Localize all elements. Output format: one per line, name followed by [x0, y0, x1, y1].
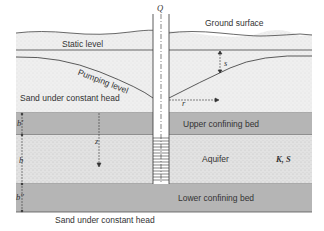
ground-surface-label: Ground surface [205, 18, 264, 28]
well-diagram: Q Ground surface Static level Pumping le… [0, 0, 324, 231]
upper-confining-label: Upper confining bed [183, 119, 259, 129]
discharge-label: Q [157, 3, 163, 13]
lower-sand-label: Sand under constant head [55, 215, 155, 225]
depth-label: z [95, 136, 98, 146]
diagram-graphics [0, 0, 324, 231]
upper-sand-label: Sand under constant head [20, 93, 120, 103]
drawdown-label: s [224, 58, 227, 68]
lower-confining-bed [16, 184, 312, 212]
thickness-lower-label: b'' [16, 192, 24, 202]
aquifer-params-label: K, S [276, 154, 291, 164]
lower-confining-label: Lower confining bed [178, 193, 254, 203]
well-screen [153, 138, 169, 180]
radius-label: r [182, 98, 185, 108]
static-level-label: Static level [62, 39, 103, 49]
thickness-upper-label: b' [17, 118, 23, 128]
thickness-aquifer-label: b [19, 155, 23, 165]
aquifer-label: Aquifer [202, 154, 229, 164]
